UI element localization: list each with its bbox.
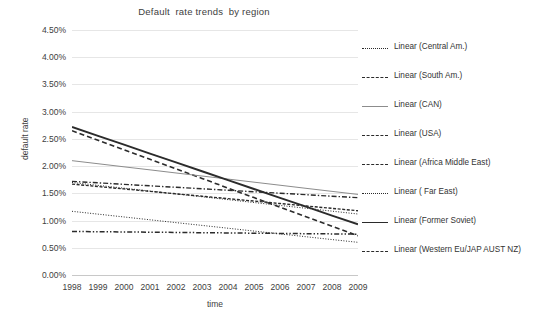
y-axis-tick-label: 3.00%: [42, 107, 66, 117]
legend-item[interactable]: Linear (South Am.): [362, 71, 534, 100]
legend-line-swatch: [362, 159, 388, 169]
x-axis-tick-label: 2003: [193, 282, 212, 292]
y-axis-tick-label: 1.50%: [42, 188, 66, 198]
x-axis-tick-label: 2007: [297, 282, 316, 292]
y-axis-tick-label: 4.00%: [42, 52, 66, 62]
x-axis-tick-label: 2006: [271, 282, 290, 292]
legend-item[interactable]: Linear (Africa Middle East): [362, 158, 534, 187]
x-axis-tick-label: 2004: [219, 282, 238, 292]
legend-label: Linear (Africa Middle East): [394, 158, 490, 168]
plot-area: 0.00%0.50%1.00%1.50%2.00%2.50%3.00%3.50%…: [72, 30, 358, 275]
series-line: [72, 184, 358, 211]
legend-label: Linear (USA): [394, 129, 441, 139]
y-axis-tick-label: 1.00%: [42, 216, 66, 226]
x-axis-tick-label: 2005: [245, 282, 264, 292]
x-axis-title: time: [72, 299, 358, 309]
legend-line-swatch: [362, 101, 388, 111]
legend-line-swatch: [362, 188, 388, 198]
series-line: [72, 127, 358, 224]
x-axis-tick-label: 2008: [323, 282, 342, 292]
y-axis-tick-label: 4.50%: [42, 25, 66, 35]
y-axis-tick-label: 0.00%: [42, 270, 66, 280]
legend-line-swatch: [362, 217, 388, 227]
y-axis-tick-label: 0.50%: [42, 243, 66, 253]
x-axis-tick-label: 1999: [89, 282, 108, 292]
legend-item[interactable]: Linear (Western Eu/JAP AUST NZ): [362, 245, 534, 274]
legend-line-swatch: [362, 43, 388, 53]
legend-label: Linear (Former Soviet): [394, 216, 476, 226]
y-axis-tick-label: 2.50%: [42, 134, 66, 144]
legend-label: Linear (South Am.): [394, 71, 462, 81]
y-axis-tick-label: 3.50%: [42, 79, 66, 89]
chart-title: Default rate trends by region: [0, 6, 534, 17]
legend-item[interactable]: Linear (USA): [362, 129, 534, 158]
legend-item[interactable]: Linear (CAN): [362, 100, 534, 129]
y-axis-title: default rate: [20, 117, 30, 160]
y-axis-tick-label: 2.00%: [42, 161, 66, 171]
legend-line-swatch: [362, 130, 388, 140]
legend-label: Linear (Central Am.): [394, 42, 467, 52]
chart-legend: Linear (Central Am.)Linear (South Am.)Li…: [362, 42, 534, 274]
series-lines: [72, 30, 358, 275]
x-axis-tick-label: 2001: [141, 282, 160, 292]
x-axis-tick-label: 2002: [167, 282, 186, 292]
series-line: [72, 211, 358, 242]
legend-item[interactable]: Linear (Former Soviet): [362, 216, 534, 245]
gridline: 0.00%: [72, 275, 358, 276]
legend-item[interactable]: Linear (Central Am.): [362, 42, 534, 71]
chart-container: Default rate trends by region default ra…: [0, 0, 534, 326]
legend-label: Linear (CAN): [394, 100, 442, 110]
x-axis-tick-label: 2000: [115, 282, 134, 292]
legend-label: Linear ( Far East): [394, 187, 458, 197]
x-axis-tick-label: 1998: [63, 282, 82, 292]
x-axis-tick-label: 2009: [349, 282, 368, 292]
legend-line-swatch: [362, 72, 388, 82]
legend-line-swatch: [362, 246, 388, 256]
series-line: [72, 231, 358, 234]
legend-label: Linear (Western Eu/JAP AUST NZ): [394, 245, 521, 255]
legend-item[interactable]: Linear ( Far East): [362, 187, 534, 216]
